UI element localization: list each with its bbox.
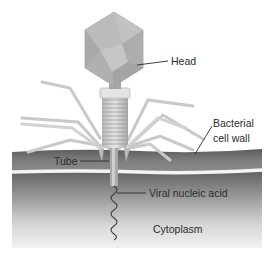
capsid-head — [85, 12, 143, 86]
label-tube: Tube — [54, 156, 78, 167]
tail-sheath — [102, 96, 128, 148]
label-cytoplasm: Cytoplasm — [153, 224, 203, 235]
label-head: Head — [171, 56, 196, 67]
tail-tube — [110, 148, 118, 186]
label-bacterial: Bacterial — [213, 118, 254, 129]
bacterial-cell-wall — [12, 149, 262, 173]
diagram-graphic — [0, 0, 273, 260]
cytoplasm-region — [12, 170, 262, 248]
label-viral-nucleic-acid: Viral nucleic acid — [149, 188, 228, 199]
phage-diagram: Head Bacterial cell wall Tube Viral nucl… — [0, 0, 273, 260]
label-cell-wall: cell wall — [213, 133, 250, 144]
